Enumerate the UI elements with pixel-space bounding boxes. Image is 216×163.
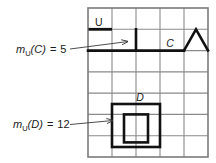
curve-c-triangle-path bbox=[184, 29, 208, 50]
measure-c-label-group: mU(C)=5 bbox=[16, 43, 66, 58]
measure-c-value: 5 bbox=[60, 43, 66, 55]
measure-theory-grid-figure: U C D mU(C)=5 bbox=[0, 0, 216, 163]
figure-canvas: U C D mU(C)=5 bbox=[0, 0, 216, 163]
measure-d-value: 12 bbox=[57, 118, 69, 130]
measure-d-arrow bbox=[70, 121, 113, 125]
curve-c bbox=[88, 29, 208, 50]
curve-c-label: C bbox=[166, 37, 174, 49]
svg-text:mU(C)=5: mU(C)=5 bbox=[16, 43, 66, 58]
svg-text:mU(D)=12: mU(D)=12 bbox=[13, 118, 70, 133]
measure-c-argument: (C) bbox=[31, 43, 47, 55]
measure-d-equals: = bbox=[47, 118, 53, 130]
measure-d-label-group: mU(D)=12 bbox=[13, 118, 70, 133]
measure-c-prefix: m bbox=[16, 43, 25, 55]
universe-label: U bbox=[95, 16, 103, 28]
measure-d-prefix: m bbox=[13, 118, 22, 130]
measure-d-argument: (D) bbox=[28, 118, 44, 130]
measure-c-arrow bbox=[70, 42, 128, 50]
curve-d-label: D bbox=[136, 91, 144, 103]
measure-c-equals: = bbox=[50, 43, 56, 55]
